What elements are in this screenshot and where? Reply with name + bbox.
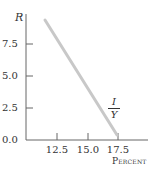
x-tick-label-12.5: 12.5 — [45, 145, 69, 155]
y-tick-label-7.5: 7.5 — [2, 39, 24, 49]
x-tick-label-15.0: 15.0 — [76, 145, 100, 155]
curve-label-denominator: Y — [108, 110, 120, 120]
y-tick-label-5.0: 5.0 — [2, 71, 24, 81]
x-axis-label: Percent — [112, 157, 147, 166]
x-tick-label-17.5: 17.5 — [106, 145, 130, 155]
y-tick-label-2.5: 2.5 — [2, 103, 24, 113]
iy-curve — [45, 20, 117, 135]
curve-label-iy: I Y — [108, 97, 120, 120]
y-axis-label: R — [15, 12, 23, 23]
curve-label-numerator: I — [108, 97, 120, 107]
y-tick-label-0.0: 0.0 — [2, 135, 24, 145]
